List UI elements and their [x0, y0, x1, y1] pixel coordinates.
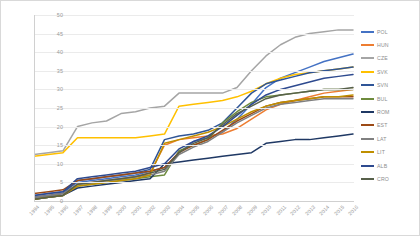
legend-label: POL — [377, 29, 388, 35]
legend-swatch-icon — [361, 31, 374, 33]
plot-area — [34, 15, 354, 201]
y-tick-label: 50 — [39, 12, 63, 18]
chart-legend: POLHUNCZESVKSVNBULROMESTLATLITALBCRO — [361, 25, 419, 186]
legend-item-svk[interactable]: SVK — [361, 65, 419, 78]
legend-label: ROM — [377, 109, 390, 115]
legend-label: LIT — [377, 149, 385, 155]
legend-label: EST — [377, 122, 388, 128]
gridline — [34, 34, 354, 35]
y-tick-label: 45 — [39, 31, 63, 37]
legend-item-svn[interactable]: SVN — [361, 79, 419, 92]
legend-label: CRO — [377, 176, 389, 182]
y-axis-line — [34, 15, 35, 201]
legend-item-bul[interactable]: BUL — [361, 92, 419, 105]
legend-label: SVK — [377, 69, 388, 75]
legend-item-pol[interactable]: POL — [361, 25, 419, 38]
legend-label: SVN — [377, 82, 388, 88]
legend-swatch-icon — [361, 151, 374, 153]
legend-swatch-icon — [361, 98, 374, 100]
gridline — [34, 15, 354, 16]
y-tick-label: 40 — [39, 49, 63, 55]
legend-label: BUL — [377, 96, 388, 102]
y-tick-label: 5 — [39, 179, 63, 185]
y-tick-label: 30 — [39, 86, 63, 92]
legend-label: CZE — [377, 55, 388, 61]
legend-item-alb[interactable]: ALB — [361, 159, 419, 172]
gridline — [34, 164, 354, 165]
gridline — [34, 182, 354, 183]
gridline — [34, 145, 354, 146]
gridline — [34, 201, 354, 202]
gridline — [34, 127, 354, 128]
chart-container: 05101520253035404550 1994199519961997199… — [0, 0, 420, 236]
y-tick-label: 25 — [39, 105, 63, 111]
legend-swatch-icon — [361, 138, 374, 140]
gridline — [34, 89, 354, 90]
y-tick-label: 20 — [39, 124, 63, 130]
legend-swatch-icon — [361, 84, 374, 86]
y-tick-label: 10 — [39, 161, 63, 167]
y-tick-label: 15 — [39, 142, 63, 148]
gridline — [34, 52, 354, 53]
legend-item-cro[interactable]: CRO — [361, 172, 419, 185]
legend-item-hun[interactable]: HUN — [361, 38, 419, 51]
legend-label: ALB — [377, 163, 387, 169]
legend-swatch-icon — [361, 57, 374, 59]
legend-swatch-icon — [361, 165, 374, 167]
legend-swatch-icon — [361, 178, 374, 180]
gridlines — [34, 15, 354, 201]
legend-item-est[interactable]: EST — [361, 119, 419, 132]
legend-swatch-icon — [361, 44, 374, 46]
legend-swatch-icon — [361, 71, 374, 73]
legend-item-cze[interactable]: CZE — [361, 52, 419, 65]
legend-item-rom[interactable]: ROM — [361, 105, 419, 118]
legend-label: HUN — [377, 42, 389, 48]
gridline — [34, 71, 354, 72]
y-tick-label: 35 — [39, 68, 63, 74]
legend-swatch-icon — [361, 111, 374, 113]
legend-item-lit[interactable]: LIT — [361, 146, 419, 159]
legend-label: LAT — [377, 136, 387, 142]
gridline — [34, 108, 354, 109]
legend-item-lat[interactable]: LAT — [361, 132, 419, 145]
legend-swatch-icon — [361, 124, 374, 126]
